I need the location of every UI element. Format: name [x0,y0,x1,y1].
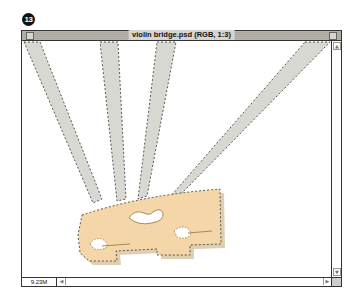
string-1 [24,42,102,203]
string-3 [138,42,176,199]
resize-grow-box[interactable] [331,278,341,286]
scroll-left-arrow-icon[interactable]: ◀ [58,278,66,285]
scroll-up-arrow-icon[interactable]: ▲ [333,42,341,50]
document-size-status[interactable]: 9.23M [22,278,57,286]
image-canvas[interactable] [22,41,331,277]
status-bar: 9.23M ◀ ▶ [22,277,341,286]
scroll-right-arrow-icon[interactable]: ▶ [323,278,331,285]
string-4 [170,42,330,197]
window-title: violin bridge.psd (RGB, 1:3) [128,30,235,40]
scroll-down-arrow-icon[interactable]: ▼ [333,268,341,276]
zoom-box-button[interactable] [329,32,337,40]
vertical-scrollbar[interactable]: ▲ ▼ [331,41,341,277]
close-box-button[interactable] [26,32,34,40]
title-bar[interactable]: violin bridge.psd (RGB, 1:3) [22,31,341,41]
violin-bridge-image [22,41,331,277]
document-window: violin bridge.psd (RGB, 1:3) [21,30,342,287]
string-2 [100,42,126,201]
step-number-badge: 13 [22,13,35,26]
